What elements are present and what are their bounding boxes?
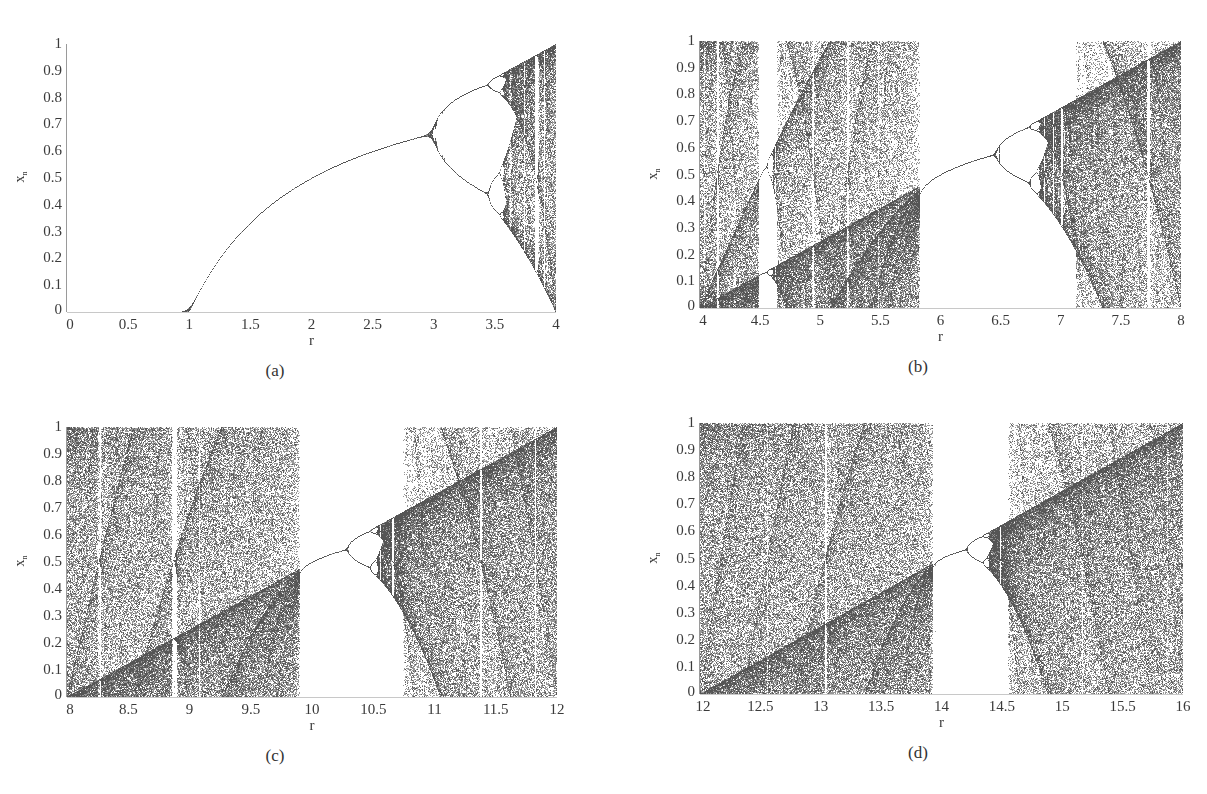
y-axis-line (66, 427, 67, 697)
y-tick-label: 0 (32, 302, 62, 317)
x-tick-label: 13 (799, 699, 843, 714)
x-tick-label: 10 (290, 702, 334, 717)
y-tick-label: 0.4 (665, 193, 695, 208)
y-tick-label: 0.2 (665, 247, 695, 262)
y-tick-label: 0.6 (665, 140, 695, 155)
bifurcation-plot (700, 41, 1181, 309)
y-tick-label: 0.8 (32, 473, 62, 488)
y-tick-label: 0.7 (665, 113, 695, 128)
x-tick-label: 5 (798, 313, 842, 328)
y-tick-label: 0.5 (665, 167, 695, 182)
x-tick-label: 9.5 (229, 702, 273, 717)
x-axis-line (67, 312, 556, 313)
y-tick-label: 0.3 (32, 224, 62, 239)
y-tick-label: 0.1 (32, 277, 62, 292)
x-tick-label: 16 (1161, 699, 1205, 714)
x-tick-label: 1.5 (228, 317, 272, 332)
y-tick-label: 0.1 (665, 659, 695, 674)
y-tick-label: 0.4 (32, 197, 62, 212)
y-tick-label: 1 (665, 415, 695, 430)
x-tick-label: 7 (1039, 313, 1083, 328)
panel-caption: (d) (898, 743, 938, 763)
y-axis-line (66, 44, 67, 312)
y-tick-label: 0.3 (665, 605, 695, 620)
y-tick-label: 1 (32, 419, 62, 434)
x-axis-label: r (931, 328, 951, 345)
y-tick-label: 0.2 (665, 632, 695, 647)
y-axis-line (699, 423, 700, 694)
y-axis-label: xn (12, 171, 30, 182)
x-tick-label: 11 (413, 702, 457, 717)
y-tick-label: 1 (32, 36, 62, 51)
x-tick-label: 8.5 (106, 702, 150, 717)
y-axis-label-main: x (645, 172, 660, 179)
x-tick-label: 5.5 (858, 313, 902, 328)
y-tick-label: 0.3 (32, 608, 62, 623)
x-tick-label: 2.5 (351, 317, 395, 332)
y-axis-label-subscript: n (653, 168, 662, 172)
x-tick-label: 8 (1159, 313, 1203, 328)
x-tick-label: 4 (681, 313, 725, 328)
y-tick-label: 0 (665, 298, 695, 313)
x-axis-line (700, 694, 1183, 695)
x-axis-label: r (302, 717, 322, 734)
panel-caption: (a) (255, 361, 295, 381)
y-axis-label-subscript: n (20, 171, 29, 175)
y-tick-label: 0.5 (32, 554, 62, 569)
x-tick-label: 12 (535, 702, 579, 717)
x-axis-line (700, 308, 1181, 309)
y-axis-label-subscript: n (20, 555, 29, 559)
x-tick-label: 6 (919, 313, 963, 328)
y-axis-label: xn (645, 168, 663, 179)
x-axis-line (67, 697, 557, 698)
y-tick-label: 0.5 (32, 170, 62, 185)
y-tick-label: 0.9 (665, 442, 695, 457)
y-axis-line (699, 41, 700, 308)
x-tick-label: 9 (168, 702, 212, 717)
x-tick-label: 1 (167, 317, 211, 332)
x-tick-label: 15.5 (1101, 699, 1145, 714)
x-tick-label: 11.5 (474, 702, 518, 717)
x-tick-label: 2 (290, 317, 334, 332)
panel-caption: (c) (255, 746, 295, 766)
x-tick-label: 7.5 (1099, 313, 1143, 328)
y-tick-label: 0.8 (665, 86, 695, 101)
x-tick-label: 14 (920, 699, 964, 714)
y-tick-label: 0.1 (32, 662, 62, 677)
y-axis-label-main: x (12, 175, 27, 182)
x-tick-label: 6.5 (979, 313, 1023, 328)
x-tick-label: 13.5 (859, 699, 903, 714)
y-tick-label: 1 (665, 33, 695, 48)
x-tick-label: 4.5 (738, 313, 782, 328)
y-tick-label: 0.1 (665, 273, 695, 288)
x-tick-label: 3.5 (473, 317, 517, 332)
panel-caption: (b) (898, 357, 938, 377)
y-tick-label: 0.9 (32, 63, 62, 78)
y-tick-label: 0 (665, 684, 695, 699)
x-tick-label: 10.5 (351, 702, 395, 717)
y-tick-label: 0.6 (32, 143, 62, 158)
y-tick-label: 0.4 (32, 581, 62, 596)
y-tick-label: 0.3 (665, 220, 695, 235)
x-axis-label: r (302, 332, 322, 349)
y-tick-label: 0 (32, 687, 62, 702)
y-tick-label: 0.7 (665, 496, 695, 511)
y-tick-label: 0.4 (665, 578, 695, 593)
y-axis-label-subscript: n (653, 552, 662, 556)
y-tick-label: 0.9 (665, 60, 695, 75)
y-tick-label: 0.5 (665, 551, 695, 566)
y-axis-label-main: x (645, 556, 660, 563)
y-tick-label: 0.9 (32, 446, 62, 461)
x-tick-label: 0 (48, 317, 92, 332)
bifurcation-plot (700, 423, 1183, 695)
x-tick-label: 4 (534, 317, 578, 332)
y-tick-label: 0.8 (32, 90, 62, 105)
y-tick-label: 0.6 (32, 527, 62, 542)
y-tick-label: 0.8 (665, 469, 695, 484)
x-axis-label: r (932, 714, 952, 731)
x-tick-label: 3 (412, 317, 456, 332)
x-tick-label: 12 (681, 699, 725, 714)
bifurcation-plot (67, 44, 556, 313)
y-tick-label: 0.2 (32, 635, 62, 650)
y-axis-label-main: x (12, 559, 27, 566)
